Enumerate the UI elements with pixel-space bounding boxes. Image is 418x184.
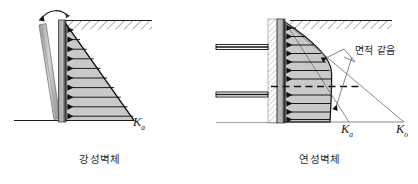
- pressure-bulge-right: [285, 22, 332, 122]
- caption-rigid-wall: 강성벽체: [40, 151, 160, 166]
- rigid-wall-body: [59, 20, 67, 122]
- ko-label-right-sub: o: [404, 130, 408, 139]
- flexible-wall-body: [277, 19, 285, 123]
- flexible-wall-panel: [216, 19, 404, 123]
- rigid-wall-panel: [14, 11, 152, 122]
- ka-label-right-sub: a: [349, 130, 353, 139]
- pressure-triangle-left: [66, 24, 134, 121]
- strut-lower: [216, 92, 268, 97]
- ka-label-left-sub: a: [141, 123, 145, 132]
- retained-soil-column: [268, 19, 277, 123]
- ka-label-right: Ka: [341, 122, 353, 139]
- equal-area-annotation: 면적 같음: [355, 42, 395, 57]
- ka-label-left: Ka: [133, 115, 145, 132]
- deflected-wall-ghost: [39, 24, 60, 120]
- ko-label-right: Ko: [396, 122, 408, 139]
- strut-upper: [216, 45, 268, 50]
- ground-surface-right: [290, 21, 392, 30]
- ground-surface-left: [66, 21, 152, 30]
- caption-flexible-wall: 연성벽체: [260, 151, 380, 166]
